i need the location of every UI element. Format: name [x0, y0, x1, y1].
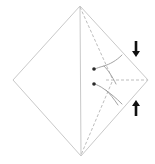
upper-curved-fold-arrow-head: [92, 67, 96, 71]
up-arrow: [132, 100, 140, 116]
origami-diagram: Origami fold step diagram Diamond-shaped…: [0, 0, 155, 164]
origami-canvas: [0, 0, 155, 164]
lower-curved-fold-arrow-head: [92, 82, 96, 86]
down-arrow: [132, 41, 140, 57]
